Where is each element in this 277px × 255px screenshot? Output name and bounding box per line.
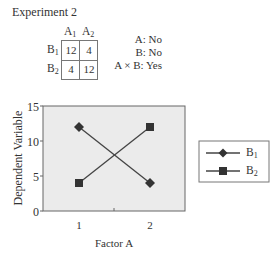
legend-box	[199, 141, 269, 182]
y-tick-15: 15	[27, 100, 39, 114]
y-tick-10: 10	[27, 135, 39, 149]
x-axis-labels: 1 2	[76, 219, 153, 231]
y-tick-0: 0	[33, 205, 39, 219]
interaction-chart: 15 10 5 0 1 2 Factor A Dependent Variabl…	[0, 0, 277, 255]
plot-area	[43, 106, 185, 211]
y-tick-5: 5	[33, 170, 39, 184]
y-axis-title: Dependent Variable	[11, 111, 25, 206]
x-tick-2: 2	[147, 219, 153, 231]
square-marker-b2-a2	[146, 123, 154, 131]
y-axis-labels: 15 10 5 0	[27, 100, 39, 219]
square-marker-b2-a1	[75, 179, 83, 187]
legend-label-b2: B2	[246, 164, 258, 178]
x-axis-title: Factor A	[95, 237, 133, 249]
x-tick-1: 1	[76, 219, 82, 231]
legend-label-b1: B1	[246, 146, 258, 160]
square-icon	[219, 167, 227, 175]
